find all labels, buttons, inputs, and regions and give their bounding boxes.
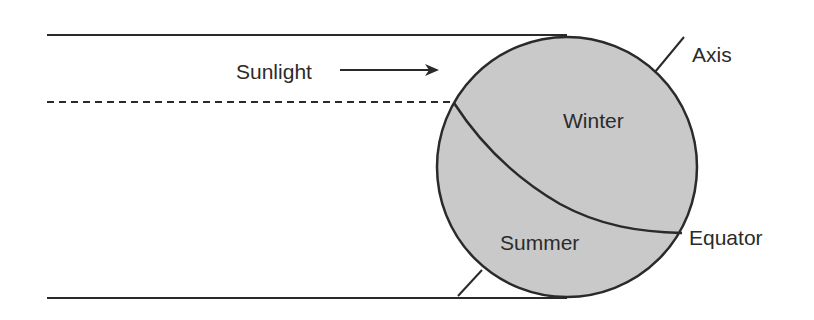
- summer-label: Summer: [500, 231, 579, 254]
- axis-label: Axis: [692, 43, 732, 66]
- axis-line-top: [655, 37, 684, 72]
- winter-label: Winter: [563, 109, 624, 132]
- earth-globe: [437, 37, 697, 297]
- diagram-canvas: Sunlight Axis Winter Summer Equator: [0, 0, 814, 320]
- earth-seasons-diagram: Sunlight Axis Winter Summer Equator: [0, 0, 814, 320]
- sunlight-label: Sunlight: [236, 60, 312, 83]
- equator-label: Equator: [689, 226, 763, 249]
- axis-line-bottom: [458, 270, 482, 296]
